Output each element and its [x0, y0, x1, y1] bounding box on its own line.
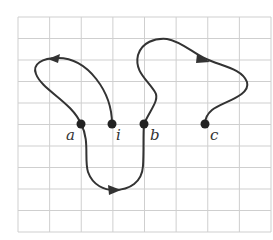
point-c	[201, 120, 210, 129]
point-b	[140, 120, 149, 129]
point-labels: aibc	[66, 126, 219, 144]
arrow-right-bottom-icon	[108, 185, 121, 195]
diagram-canvas: aibc	[0, 0, 273, 240]
label-c: c	[210, 126, 219, 144]
path-i-to-a	[35, 58, 112, 124]
label-a: a	[66, 126, 75, 144]
label-b: b	[150, 126, 160, 144]
label-i: i	[116, 126, 121, 144]
point-a	[77, 120, 86, 129]
